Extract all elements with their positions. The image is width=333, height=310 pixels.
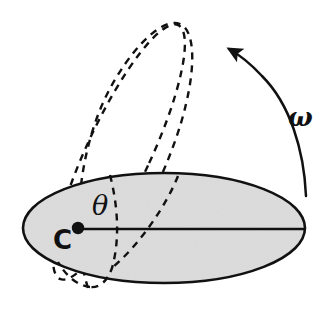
figure-canvas: C θ ω — [0, 0, 333, 310]
center-label: C — [53, 227, 72, 253]
angular-velocity-label: ω — [288, 104, 313, 130]
rotating-disk-diagram — [0, 0, 333, 310]
center-dot — [72, 222, 84, 234]
tilt-angle-label: θ — [92, 192, 108, 219]
